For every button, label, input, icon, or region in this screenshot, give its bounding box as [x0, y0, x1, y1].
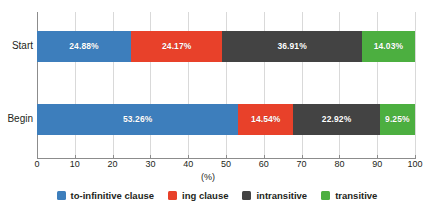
bar-value-label: 24.88%: [69, 42, 98, 51]
legend-swatch-icon: [168, 191, 177, 200]
bar-value-label: 9.25%: [385, 115, 410, 124]
x-tick-label-30: 30: [145, 159, 155, 169]
x-tick-label-0: 0: [34, 159, 39, 169]
legend-swatch-icon: [57, 191, 66, 200]
legend-label: transitive: [335, 191, 377, 201]
bar-segment[interactable]: 22.92%: [293, 104, 380, 135]
legend-swatch-icon: [321, 191, 330, 200]
bar-value-label: 14.54%: [251, 115, 280, 124]
bar-row[interactable]: 24.88%24.17%36.91%14.03%: [37, 31, 415, 62]
x-axis-ticks: 0102030405060708090100: [37, 159, 415, 173]
x-tick-label-20: 20: [108, 159, 118, 169]
stacked-bar-chart: 24.88%24.17%36.91%14.03%53.26%14.54%22.9…: [0, 0, 434, 216]
legend-label: ing clause: [182, 191, 228, 201]
legend-item[interactable]: transitive: [321, 191, 377, 201]
chart-legend: to-infinitive clauseing clauseintransiti…: [0, 191, 434, 201]
category-label-begin: Begin: [0, 113, 33, 124]
x-tick-label-40: 40: [183, 159, 193, 169]
bar-row[interactable]: 53.26%14.54%22.92%9.25%: [37, 104, 415, 135]
x-tick-label-80: 80: [334, 159, 344, 169]
category-axis-labels: StartBegin: [0, 12, 33, 158]
bar-value-label: 14.03%: [374, 42, 403, 51]
legend-label: to-infinitive clause: [71, 191, 154, 201]
x-tick-label-70: 70: [297, 159, 307, 169]
bar-value-label: 24.17%: [162, 42, 191, 51]
category-label-start: Start: [0, 40, 33, 51]
bar-segment[interactable]: 53.26%: [37, 104, 238, 135]
legend-swatch-icon: [242, 191, 251, 200]
bar-segment[interactable]: 36.91%: [222, 31, 362, 62]
gridline-100: [415, 12, 416, 158]
legend-item[interactable]: ing clause: [168, 191, 228, 201]
x-tick-label-50: 50: [221, 159, 231, 169]
x-axis-title-text: (%): [201, 172, 215, 182]
bar-value-label: 22.92%: [322, 115, 351, 124]
bar-segment[interactable]: 14.03%: [362, 31, 415, 62]
x-tick-label-60: 60: [259, 159, 269, 169]
x-axis-title: (%): [0, 172, 434, 182]
plot-area: 24.88%24.17%36.91%14.03%53.26%14.54%22.9…: [37, 12, 415, 158]
legend-item[interactable]: to-infinitive clause: [57, 191, 154, 201]
bar-value-label: 36.91%: [277, 42, 306, 51]
bar-value-label: 53.26%: [123, 115, 152, 124]
x-tick-label-10: 10: [70, 159, 80, 169]
bar-segment[interactable]: 14.54%: [238, 104, 293, 135]
bar-segment[interactable]: 24.17%: [131, 31, 222, 62]
bar-segment[interactable]: 24.88%: [37, 31, 131, 62]
x-tick-label-90: 90: [372, 159, 382, 169]
legend-label: intransitive: [256, 191, 307, 201]
bar-segment[interactable]: 9.25%: [380, 104, 415, 135]
x-tick-label-100: 100: [407, 159, 422, 169]
legend-item[interactable]: intransitive: [242, 191, 307, 201]
